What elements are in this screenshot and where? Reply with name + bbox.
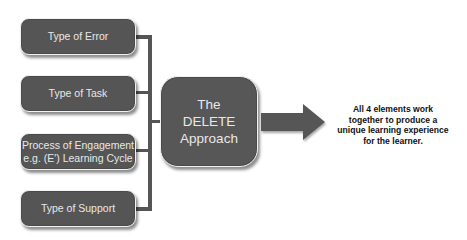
element-label: Type of Support: [41, 202, 115, 214]
caption-line-4: for the learner.: [325, 136, 461, 147]
caption-line-1: All 4 elements work: [325, 104, 461, 115]
right-arrow-icon: [261, 103, 327, 143]
element-box-process-of-engagement: Process of Engagement e.g. (E') Learning…: [20, 133, 136, 170]
center-label-line-2: DELETE: [180, 113, 238, 130]
caption-line-3: unique learning experience: [325, 125, 461, 136]
element-label-line-2: e.g. (E') Learning Cycle: [22, 152, 134, 165]
center-label-line-3: Approach: [180, 130, 238, 147]
connector-branch-4: [136, 207, 152, 211]
element-label: Type of Error: [48, 30, 109, 42]
connector-branch-1: [136, 35, 152, 39]
delete-approach-box: The DELETE Approach: [160, 76, 258, 167]
center-label-line-1: The: [180, 96, 238, 113]
connector-branch-2: [136, 91, 152, 94]
element-label-line-1: Process of Engagement: [22, 139, 134, 152]
connector-branch-3: [136, 149, 152, 152]
element-box-type-of-error: Type of Error: [20, 18, 136, 55]
outcome-caption: All 4 elements work together to produce …: [325, 104, 461, 146]
caption-line-2: together to produce a: [325, 115, 461, 126]
element-box-type-of-task: Type of Task: [20, 75, 136, 112]
element-box-type-of-support: Type of Support: [20, 190, 136, 227]
element-label: Type of Task: [49, 87, 108, 99]
